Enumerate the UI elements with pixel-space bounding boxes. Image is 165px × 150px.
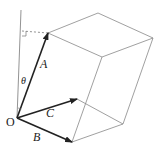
normal-line — [17, 10, 21, 118]
label-angle-theta: θ — [21, 76, 26, 86]
parallelepiped-edges — [48, 13, 153, 142]
label-vector-c: C — [46, 107, 54, 119]
label-origin: O — [6, 116, 15, 128]
vector-b-arrow — [17, 118, 72, 142]
right-angle-mark — [22, 31, 26, 36]
parallelepiped-diagram: A θ C O B — [0, 0, 165, 150]
label-vector-a: A — [40, 58, 47, 70]
label-vector-b: B — [33, 131, 40, 143]
